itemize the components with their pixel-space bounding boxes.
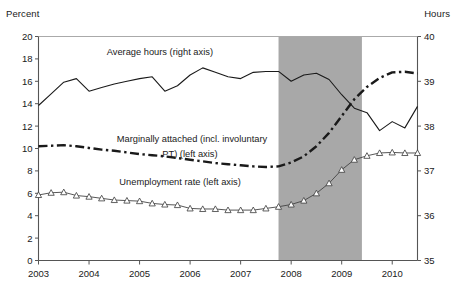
y-tick-label-left: 6 <box>27 188 32 199</box>
series-annotation: Marginally attached (incl. involuntary <box>117 134 268 144</box>
x-tick-label: 2010 <box>382 268 403 279</box>
series-annotation: Unemployment rate (left axis) <box>119 177 240 187</box>
x-tick-label: 2003 <box>28 268 49 279</box>
recession-shading-layer <box>279 37 362 261</box>
y-tick-label-left: 4 <box>27 210 32 221</box>
y-tick-label-right: 38 <box>424 121 435 132</box>
y-tick-label-left: 8 <box>27 165 32 176</box>
y-tick-label-left: 0 <box>27 255 32 266</box>
chart-plot-area: 0246810121416182035363738394020032004200… <box>0 0 457 296</box>
x-tick-label: 2005 <box>129 268 150 279</box>
y-tick-label-right: 40 <box>424 31 435 42</box>
x-tick-label: 2006 <box>180 268 201 279</box>
y-tick-label-left: 16 <box>22 76 33 87</box>
y-tick-label-left: 12 <box>22 121 33 132</box>
y-tick-label-left: 10 <box>22 143 33 154</box>
series-annotation: PT) (left axis) <box>162 149 217 159</box>
tick-marks-layer <box>35 37 421 265</box>
y-tick-label-right: 39 <box>424 76 435 87</box>
x-tick-label: 2008 <box>281 268 302 279</box>
y-tick-label-left: 14 <box>22 98 33 109</box>
series-annotation: Average hours (right axis) <box>107 47 213 57</box>
x-tick-label: 2007 <box>230 268 251 279</box>
x-tick-label: 2009 <box>331 268 352 279</box>
x-tick-label: 2004 <box>78 268 99 279</box>
recession-shading <box>279 37 362 261</box>
y-tick-label-left: 2 <box>27 233 32 244</box>
y-tick-label-left: 20 <box>22 31 33 42</box>
y-tick-label-right: 35 <box>424 255 435 266</box>
y-tick-label-right: 36 <box>424 210 435 221</box>
y-tick-label-right: 37 <box>424 165 435 176</box>
chart-figure: Percent Hours 02468101214161820353637383… <box>0 0 457 296</box>
y-tick-label-left: 18 <box>22 53 33 64</box>
